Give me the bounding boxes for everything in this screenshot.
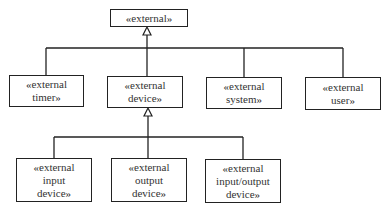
generalization-arrow-icon: [144, 108, 152, 116]
class-external-timer: «external timer»: [9, 75, 84, 107]
class-external: «external»: [110, 9, 188, 27]
class-external-output-device: «external output device»: [111, 158, 187, 202]
class-external-user: «external user»: [305, 77, 381, 110]
class-external-input-output-device: «external input/output device»: [205, 159, 281, 203]
class-external-input-device: «external input device»: [16, 158, 92, 202]
class-external-device: «external device»: [107, 76, 183, 108]
class-external-system: «external system»: [206, 77, 282, 109]
generalization-arrow-icon: [143, 27, 151, 35]
